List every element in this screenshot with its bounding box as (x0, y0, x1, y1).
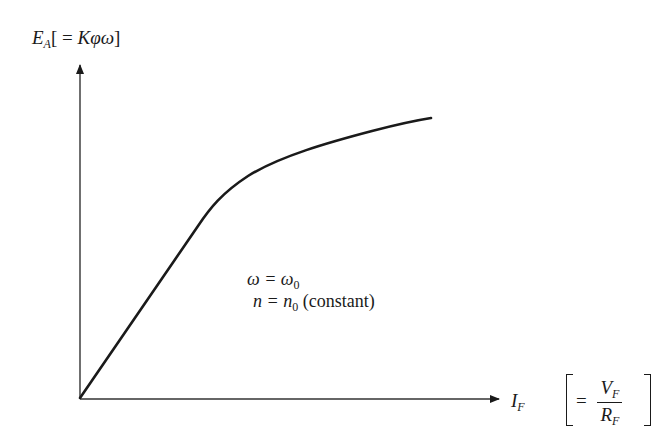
x-axis-subscript: F (517, 400, 524, 414)
x-axis-label: IF (511, 391, 525, 413)
annotation-speed-sub: 0 (294, 278, 300, 292)
y-axis-symbol: E (32, 27, 44, 48)
denominator-subscript: F (612, 414, 619, 428)
y-axis-subscript: A (44, 37, 51, 51)
fraction-denominator: RF (597, 403, 622, 427)
denominator-symbol: R (600, 404, 612, 425)
y-axis-equiv-prefix: [ = (51, 27, 78, 48)
annotation-rpm-text: n = n (253, 291, 292, 311)
y-axis-equiv-expr: Kφω (78, 27, 115, 48)
magnetization-curve (80, 118, 431, 398)
fraction-numerator: VF (597, 378, 622, 403)
annotation-speed-text: ω = ω (247, 269, 294, 289)
fraction: VF RF (597, 378, 622, 427)
annotation-constant: (constant) (298, 291, 374, 311)
x-axis-equivalence: = VF RF (576, 378, 622, 427)
x-axis-equiv-sign: = (576, 390, 587, 411)
annotation-rpm: n = n0 (constant) (253, 292, 375, 313)
numerator-subscript: F (612, 387, 619, 401)
y-axis-equiv-suffix: ] (114, 27, 120, 48)
y-axis-label: EA[ = Kφω] (32, 28, 120, 50)
right-bracket (644, 374, 651, 426)
numerator-symbol: V (600, 377, 612, 398)
annotation-speed: ω = ω0 (247, 270, 300, 291)
left-bracket (566, 374, 573, 426)
